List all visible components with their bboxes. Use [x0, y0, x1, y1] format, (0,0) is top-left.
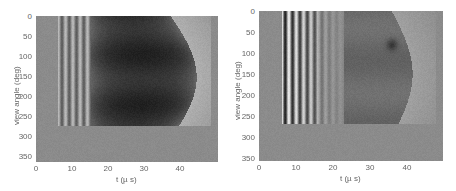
xtick: 40	[170, 165, 190, 173]
xtick: 30	[134, 165, 154, 173]
xtick: 10	[286, 164, 306, 172]
xtick: 30	[360, 164, 380, 172]
ytick: 100	[8, 53, 32, 61]
sinogram-plot-right	[259, 11, 443, 161]
ytick: 50	[231, 29, 255, 37]
xtick: 0	[249, 164, 269, 172]
sinogram-panel-left: 0 50 100 150 200 250 300 350 0 10 20 30 …	[0, 0, 228, 191]
y-axis-label-left: view angle (deg)	[12, 66, 21, 125]
ytick: 50	[8, 33, 32, 41]
x-axis-label-left: t (µ s)	[116, 175, 137, 184]
ytick: 300	[8, 133, 32, 141]
sinogram-image-left	[36, 16, 218, 162]
sinogram-image-right	[259, 11, 443, 161]
sinogram-panel-right: 0 50 100 150 200 250 300 350 0 10 20 30 …	[228, 0, 456, 191]
xtick: 20	[98, 165, 118, 173]
ytick: 0	[231, 8, 255, 16]
sinogram-plot-left	[36, 16, 218, 162]
ytick: 350	[231, 155, 255, 163]
ytick: 100	[231, 50, 255, 58]
xtick: 0	[26, 165, 46, 173]
ytick: 300	[231, 134, 255, 142]
ytick: 0	[8, 13, 32, 21]
xtick: 40	[397, 164, 417, 172]
y-axis-label-right: view angle (deg)	[233, 61, 242, 120]
xtick: 10	[62, 165, 82, 173]
xtick: 20	[323, 164, 343, 172]
x-axis-label-right: t (µ s)	[340, 174, 361, 183]
ytick: 350	[8, 153, 32, 161]
